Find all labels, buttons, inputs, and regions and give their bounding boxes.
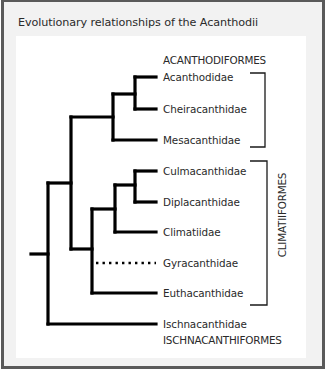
taxon-label: Euthacanthidae xyxy=(163,287,243,299)
group-label-acanthodiformes: ACANTHODIFORMES xyxy=(163,54,266,66)
bracket-acanthodiformes xyxy=(250,73,265,147)
taxon-label: Gyracanthidae xyxy=(163,257,238,269)
taxon-label: Mesacanthidae xyxy=(163,134,240,146)
taxon-label: Climatiidae xyxy=(163,226,221,238)
taxon-label: Diplacanthidae xyxy=(163,196,240,208)
taxon-label: Ischnacanthidae xyxy=(163,318,247,330)
taxon-label: Cheiracanthidae xyxy=(163,103,247,115)
taxon-label: Acanthodidae xyxy=(163,71,233,83)
group-label-ischnacanthiformes: ISCHNACANTHIFORMES xyxy=(163,334,282,346)
bracket-climatiiformes xyxy=(250,161,267,305)
group-label-climatiiformes: CLIMATIIFORMES xyxy=(276,168,288,262)
taxon-label: Culmacanthidae xyxy=(163,165,246,177)
